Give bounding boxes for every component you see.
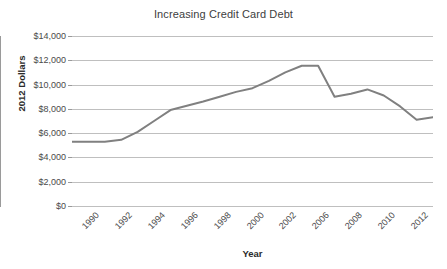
y-tick-mark — [68, 206, 72, 207]
y-tick-mark — [68, 133, 72, 134]
x-axis-title: Year — [72, 248, 433, 259]
x-axis-tick-labels: 1990199219941996199820002002200620082010… — [0, 0, 447, 269]
chart-container: Increasing Credit Card Debt 2012 Dollars… — [0, 0, 447, 269]
y-tick-mark — [68, 109, 72, 110]
y-tick-mark — [68, 36, 72, 37]
y-tick-mark — [68, 157, 72, 158]
y-tick-mark — [68, 60, 72, 61]
y-tick-mark — [68, 182, 72, 183]
y-tick-mark — [68, 85, 72, 86]
